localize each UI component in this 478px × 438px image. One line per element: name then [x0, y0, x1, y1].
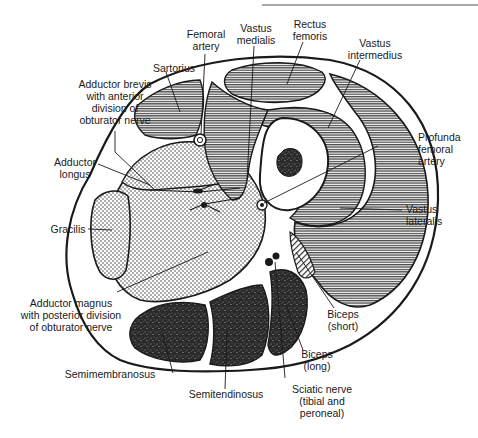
label-rectus-femoris: Rectus femoris: [282, 18, 338, 42]
label-gracilis: Gracilis: [46, 223, 90, 235]
label-sciatic-nerve: Sciatic nerve (tibial and peroneal): [282, 383, 362, 419]
femur-marrow: [277, 148, 302, 176]
label-biceps-short: Biceps (short): [320, 308, 366, 332]
label-vastus-lateralis: Vastus lateralis: [406, 203, 466, 227]
label-profunda-femoral-artery: Profunda femoral artery: [418, 131, 478, 167]
label-adductor-longus: Adductor longus: [50, 156, 100, 180]
femoral-artery-lumen: [197, 137, 202, 142]
label-vastus-medialis: Vastus medialis: [228, 22, 284, 46]
label-semitendinosus: Semitendinosus: [178, 388, 274, 400]
anterior-obturator-nerve: [193, 189, 203, 194]
label-femoral-artery: Femoral artery: [178, 28, 234, 52]
posterior-obturator-nerve: [201, 202, 207, 208]
sciatic-nerve-tibial: [265, 258, 273, 266]
sciatic-nerve-peroneal: [273, 253, 280, 260]
label-adductor-brevis: Adductor brevis with anterior division o…: [60, 78, 170, 126]
label-adductor-magnus: Adductor magnus with posterior division …: [16, 297, 126, 333]
rectus-femoris-muscle: [225, 63, 326, 103]
label-sartorius: Sartorius: [146, 62, 202, 74]
gracilis-muscle: [91, 191, 130, 279]
thigh-cross-section-figure: Femoral artery Vastus medialis Rectus fe…: [0, 0, 478, 438]
label-semimembranosus: Semimembranosus: [60, 368, 160, 380]
semitendinosus-muscle: [210, 285, 269, 366]
profunda-femoral-lumen: [260, 203, 264, 207]
label-vastus-intermedius: Vastus intermedius: [340, 37, 410, 61]
label-biceps-long: Biceps (long): [294, 348, 340, 372]
